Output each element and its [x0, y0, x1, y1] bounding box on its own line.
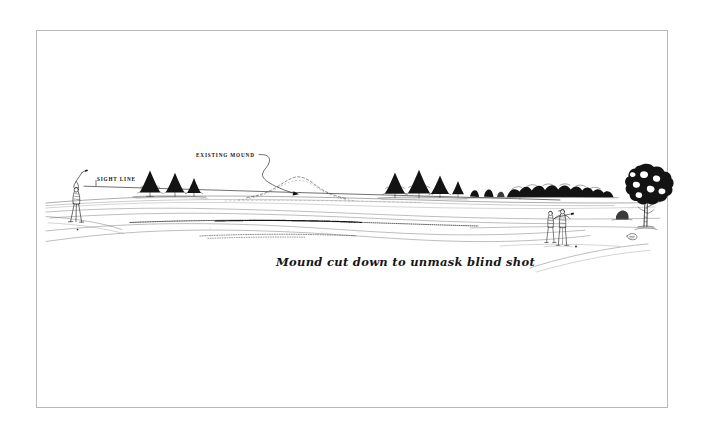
fairway-contour-lines — [46, 208, 660, 272]
large-deciduous-tree — [612, 164, 674, 240]
evergreen-tree — [452, 181, 464, 197]
shrub — [470, 190, 479, 197]
evergreen-tree — [383, 173, 408, 198]
two-standing-figures — [544, 210, 577, 248]
evergreen-tree — [164, 173, 187, 197]
evergreen-tree — [138, 171, 163, 197]
distant-shrub-treeline — [466, 184, 618, 198]
evergreen-tree — [185, 178, 202, 196]
shrub — [484, 190, 493, 197]
evergreen-tree — [406, 170, 433, 198]
texture-speckle — [96, 216, 549, 233]
evergreen-tree-cluster-left — [133, 171, 208, 199]
shrub — [497, 192, 505, 197]
existing-mound-leader-line — [259, 155, 299, 196]
standing-figure-with-club — [554, 210, 574, 246]
standing-figure — [545, 211, 556, 242]
golfer-swinging-figure — [68, 169, 88, 230]
golf-landscape-illustration: .ink { stroke:#141414; fill:none; stroke… — [0, 0, 702, 439]
screenshot-canvas: .ink { stroke:#141414; fill:none; stroke… — [0, 0, 702, 439]
